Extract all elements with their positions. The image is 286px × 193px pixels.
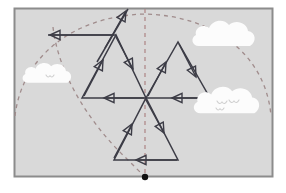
diagram-stage bbox=[0, 0, 286, 193]
geometry-diagram-svg bbox=[0, 0, 286, 193]
pivot-point bbox=[142, 174, 148, 180]
